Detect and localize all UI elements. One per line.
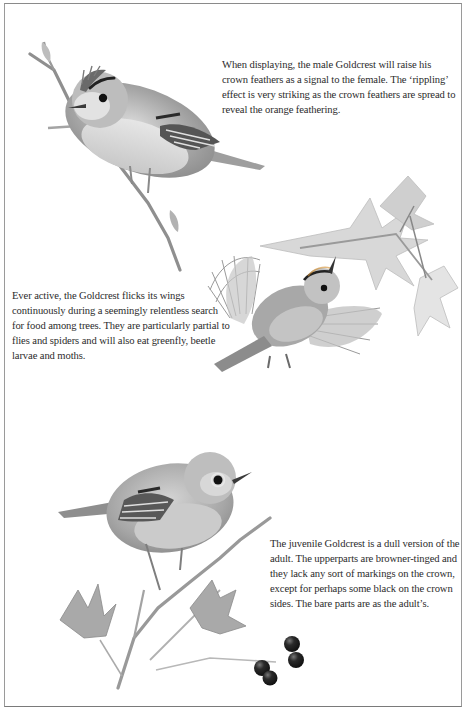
caption-text: The juvenile Goldcrest is a dull version…	[270, 536, 460, 611]
caption-text: Ever active, the Goldcrest flicks its wi…	[12, 288, 232, 363]
illustration-wing-flicking-goldcrest	[200, 168, 465, 383]
caption-male-displaying: When displaying, the male Goldcrest will…	[222, 57, 458, 117]
caption-text: When displaying, the male Goldcrest will…	[222, 57, 458, 117]
caption-juvenile: The juvenile Goldcrest is a dull version…	[270, 536, 460, 611]
caption-active-feeding: Ever active, the Goldcrest flicks its wi…	[12, 288, 232, 363]
bird-spread-wings-icon	[200, 168, 465, 383]
